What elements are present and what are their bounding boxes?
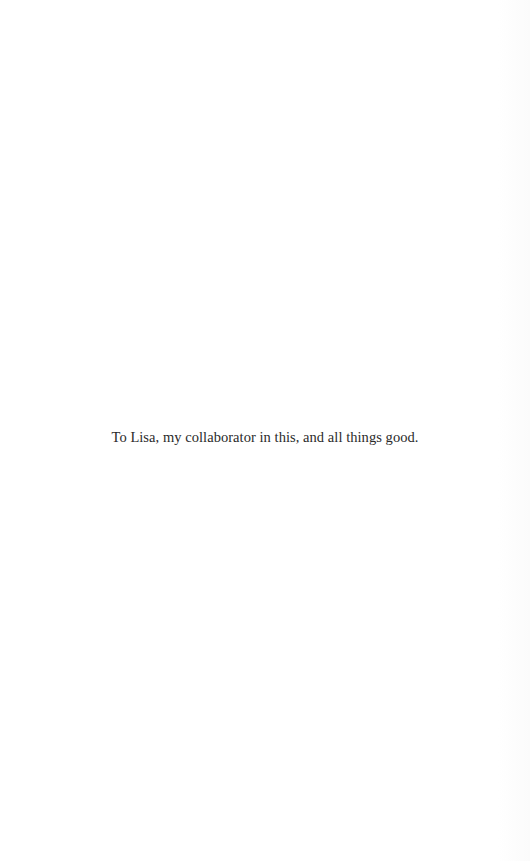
book-page: To Lisa, my collaborator in this, and al… (0, 0, 530, 861)
dedication-text: To Lisa, my collaborator in this, and al… (0, 428, 530, 446)
